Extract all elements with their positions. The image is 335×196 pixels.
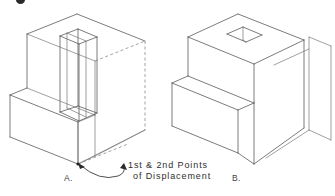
figure-a-inner-prism-top [60, 29, 97, 44]
callout-line-2: of Displacement [133, 171, 211, 181]
figure-a-inner-prism-verticals [60, 29, 97, 121]
figure-a-guide-prism [67, 33, 86, 117]
leader-arrowhead-end [120, 163, 127, 170]
figure-a-step-top-face [10, 88, 95, 122]
figure-label-b: B. [232, 173, 241, 183]
figure-b-square-hole [227, 27, 262, 42]
figure-a-wireframe [10, 14, 145, 166]
figure-a-step-block [10, 95, 95, 164]
figure-b-top-face [188, 14, 304, 64]
figure-a-base-plane [78, 130, 145, 164]
displacement-callout-leader [78, 163, 127, 178]
technical-drawing-canvas: 1st & 2nd Points of Displacement A. B. [0, 0, 335, 196]
figure-b-upper-right-face [254, 40, 304, 164]
figure-b-solid [172, 14, 331, 164]
figure-b-upper-left-face [188, 37, 254, 103]
figure-b-step-top-face [172, 76, 254, 110]
callout-line-1: 1st & 2nd Points [128, 160, 208, 170]
figure-b-step-front-faces [172, 83, 254, 164]
figure-label-a: A. [64, 173, 73, 183]
figure-b-backdrop-plane [266, 37, 331, 158]
